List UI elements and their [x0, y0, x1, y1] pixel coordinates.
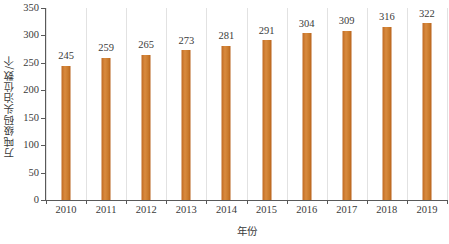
- bar-value-label: 265: [138, 40, 154, 51]
- x-axis-tick-mark: [126, 200, 127, 204]
- y-axis-title: 万吨级码头泊位数/个: [0, 0, 16, 212]
- x-axis-tick-label: 2018: [376, 205, 397, 216]
- y-axis-tick-mark: [41, 173, 45, 174]
- bar[interactable]: [62, 66, 71, 200]
- bar-value-label: 309: [339, 16, 355, 27]
- bar-value-label: 304: [299, 19, 315, 30]
- bar-chart: 万吨级码头泊位数/个 050100150200250300350 2452592…: [0, 0, 449, 244]
- x-axis-tick-mark: [46, 200, 47, 204]
- bar[interactable]: [342, 31, 351, 201]
- x-axis-tick-mark: [247, 200, 248, 204]
- bar-value-label: 273: [178, 36, 194, 47]
- y-axis-tick-labels: 050100150200250300350: [16, 8, 42, 200]
- bar-group: 273: [166, 8, 206, 200]
- bar[interactable]: [102, 58, 111, 200]
- x-axis-title: 年份: [46, 223, 447, 238]
- x-axis-tick-mark: [327, 200, 328, 204]
- y-axis-tick-mark: [41, 90, 45, 91]
- bar-value-label: 316: [379, 12, 395, 23]
- bar[interactable]: [262, 40, 271, 200]
- x-axis-tick-mark: [287, 200, 288, 204]
- bar-group: 291: [247, 8, 287, 200]
- x-axis-tick-label: 2010: [56, 205, 77, 216]
- x-axis-tick-label: 2014: [216, 205, 237, 216]
- plot-area: 245259265273281291304309316322: [46, 8, 447, 200]
- y-axis-tick-label: 200: [23, 85, 39, 96]
- y-axis-tick-label: 300: [23, 30, 39, 41]
- x-axis-tick-label: 2015: [256, 205, 277, 216]
- bar-group: 281: [206, 8, 246, 200]
- bar-group: 245: [46, 8, 86, 200]
- x-axis-tick-label: 2013: [176, 205, 197, 216]
- bar[interactable]: [422, 23, 431, 200]
- y-axis-tick-mark: [41, 118, 45, 119]
- y-axis-tick-label: 50: [29, 167, 40, 178]
- bar[interactable]: [382, 27, 391, 200]
- bar-group: 259: [86, 8, 126, 200]
- bar-value-label: 322: [419, 9, 435, 20]
- x-axis-line: [45, 200, 447, 201]
- y-axis-tick-mark: [41, 200, 45, 201]
- bar-value-label: 259: [98, 43, 114, 54]
- y-axis-title-text: 万吨级码头泊位数/个: [1, 55, 16, 158]
- bar-group: 322: [407, 8, 447, 200]
- x-axis-tick-mark: [447, 200, 448, 204]
- x-axis-tick-label: 2016: [296, 205, 317, 216]
- y-axis-tick-label: 150: [23, 112, 39, 123]
- y-axis-tick-label: 100: [23, 140, 39, 151]
- bar-value-label: 245: [58, 51, 74, 62]
- gridline: [447, 8, 448, 200]
- bar-group: 265: [126, 8, 166, 200]
- x-axis-tick-label: 2012: [136, 205, 157, 216]
- bar[interactable]: [182, 50, 191, 200]
- x-axis-tick-mark: [206, 200, 207, 204]
- x-axis-tick-label: 2017: [336, 205, 357, 216]
- bar-value-label: 291: [259, 26, 275, 37]
- y-axis-tick-mark: [41, 63, 45, 64]
- x-axis-tick-label: 2011: [96, 205, 117, 216]
- bar[interactable]: [222, 46, 231, 200]
- y-axis-tick-label: 350: [23, 3, 39, 14]
- x-axis-tick-mark: [166, 200, 167, 204]
- x-axis-tick-mark: [86, 200, 87, 204]
- bar-group: 316: [367, 8, 407, 200]
- bar[interactable]: [302, 33, 311, 200]
- y-axis-tick-mark: [41, 145, 45, 146]
- y-axis-tick-mark: [41, 8, 45, 9]
- x-axis-tick-labels: 2010201120122013201420152016201720182019: [46, 205, 447, 221]
- y-axis-tick-label: 0: [34, 195, 39, 206]
- bar[interactable]: [142, 55, 151, 200]
- bar-group: 304: [287, 8, 327, 200]
- bar-value-label: 281: [219, 31, 235, 42]
- bar-group: 309: [327, 8, 367, 200]
- x-axis-tick-mark: [407, 200, 408, 204]
- y-axis-tick-label: 250: [23, 58, 39, 69]
- x-axis-tick-mark: [367, 200, 368, 204]
- x-axis-tick-label: 2019: [416, 205, 437, 216]
- y-axis-tick-mark: [41, 35, 45, 36]
